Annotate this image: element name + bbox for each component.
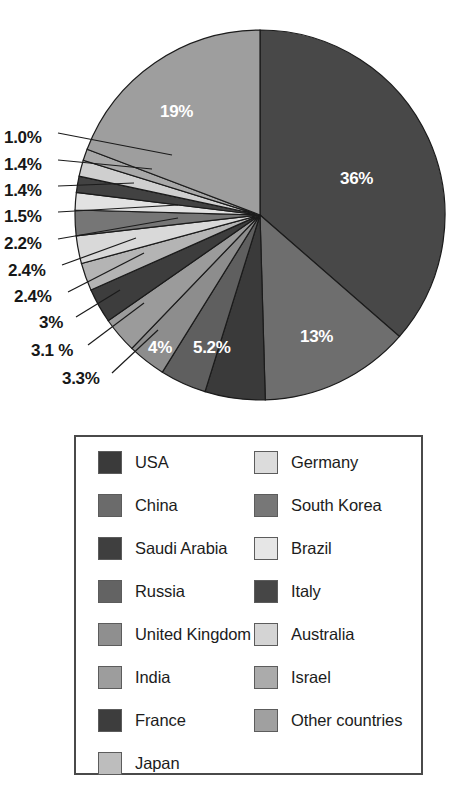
legend-item[interactable]: India: [98, 664, 170, 690]
legend-item[interactable]: Russia: [98, 578, 185, 604]
legend-item[interactable]: United Kingdom: [98, 621, 251, 647]
pie-value-label: 13%: [300, 328, 333, 345]
legend-swatch-icon: [98, 623, 122, 646]
legend-item-label: Australia: [291, 625, 354, 644]
legend-item[interactable]: Saudi Arabia: [98, 535, 227, 561]
legend-item-label: United Kingdom: [135, 625, 251, 644]
pie-value-label: 1.5%: [4, 208, 42, 225]
pie-slice-group: [75, 30, 445, 400]
legend-swatch-icon: [98, 752, 122, 775]
legend-swatch-icon: [98, 580, 122, 603]
pie-value-label: 3.3%: [62, 370, 100, 387]
legend-swatch-icon: [98, 451, 122, 474]
legend-swatch-icon: [254, 451, 278, 474]
pie-value-label: 2.2%: [4, 235, 42, 252]
legend-item-label: Saudi Arabia: [135, 539, 227, 558]
legend-item-label: Brazil: [291, 539, 332, 558]
legend-item[interactable]: Other countries: [254, 707, 402, 733]
pie-value-label: 1.4%: [4, 182, 42, 199]
pie-value-label: 3%: [39, 314, 63, 331]
pie-value-label: 19%: [160, 103, 193, 120]
legend-item[interactable]: Japan: [98, 750, 179, 776]
legend-item[interactable]: South Korea: [254, 492, 382, 518]
pie-value-label: 2.4%: [14, 288, 52, 305]
pie-value-label: 3.1 %: [31, 342, 73, 359]
legend-swatch-icon: [254, 623, 278, 646]
pie-value-label: 2.4%: [8, 262, 46, 279]
pie-value-label: 1.0%: [4, 129, 42, 146]
legend-swatch-icon: [98, 666, 122, 689]
legend-item-label: China: [135, 496, 178, 515]
legend-swatch-icon: [254, 494, 278, 517]
pie-chart-figure: 36%13%5.2%4%19%1.0%1.4%1.4%1.5%2.2%2.4%2…: [0, 0, 458, 798]
legend-item[interactable]: Italy: [254, 578, 321, 604]
legend-item-label: Russia: [135, 582, 185, 601]
legend-item-label: Other countries: [291, 711, 402, 730]
legend-item-label: Israel: [291, 668, 331, 687]
pie-value-label: 5.2%: [193, 339, 231, 356]
legend-item[interactable]: USA: [98, 449, 169, 475]
legend-swatch-icon: [98, 537, 122, 560]
legend-item-label: Germany: [291, 453, 358, 472]
legend-item[interactable]: Australia: [254, 621, 354, 647]
legend-item[interactable]: Germany: [254, 449, 358, 475]
pie-value-label: 4%: [148, 339, 172, 356]
legend-item-label: Italy: [291, 582, 321, 601]
legend-item[interactable]: Brazil: [254, 535, 332, 561]
legend-swatch-icon: [254, 709, 278, 732]
pie-value-label: 36%: [340, 170, 373, 187]
legend-item-label: Japan: [135, 754, 179, 773]
legend-swatch-icon: [254, 580, 278, 603]
legend-item[interactable]: France: [98, 707, 186, 733]
legend-swatch-icon: [254, 537, 278, 560]
legend-swatch-icon: [98, 494, 122, 517]
legend-item[interactable]: China: [98, 492, 178, 518]
legend-swatch-icon: [254, 666, 278, 689]
legend-item-label: South Korea: [291, 496, 382, 515]
legend-item-label: USA: [135, 453, 169, 472]
legend-box: USAChinaSaudi ArabiaRussiaUnited Kingdom…: [74, 435, 423, 775]
legend-item-label: France: [135, 711, 186, 730]
pie-value-label: 1.4%: [4, 156, 42, 173]
legend-item-label: India: [135, 668, 170, 687]
legend-item[interactable]: Israel: [254, 664, 331, 690]
legend-swatch-icon: [98, 709, 122, 732]
